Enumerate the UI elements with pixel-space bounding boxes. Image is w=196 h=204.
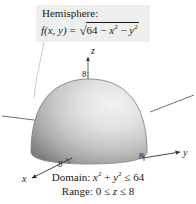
range-lower: 0 ≤ [96, 185, 113, 197]
radicand: 64 − x2 − y2 [86, 22, 139, 37]
range-label: Range: [62, 185, 96, 197]
domain-line: Domain: x2 + y2 ≤ 64 [0, 170, 196, 184]
domain-plus: + [101, 171, 113, 183]
range-upper: ≤ 8 [117, 185, 134, 197]
domain-relation: ≤ 64 [122, 171, 145, 183]
caption-block: Domain: x2 + y2 ≤ 64 Range: 0 ≤ z ≤ 8 [0, 170, 196, 198]
radicand-minus: − [118, 24, 130, 36]
equals-sign: = [67, 24, 79, 36]
radical-expression: √64 − x2 − y2 [78, 22, 138, 38]
axis-y-positive [143, 152, 180, 158]
axis-label-z: z [91, 46, 95, 56]
axis-tick-label-z-8: 8 [82, 70, 87, 79]
axis-tick-label-x-8: 8 [58, 160, 63, 169]
callout-formula: f(x, y) = √64 − x2 − y2 [41, 22, 139, 38]
function-args: (x, y) [44, 24, 67, 36]
domain-label: Domain: [52, 171, 93, 183]
callout-title: Hemisphere: [42, 7, 98, 20]
hemisphere-surface [31, 79, 147, 164]
radicand-constant: 64 − [87, 24, 110, 36]
axis-x-negative [150, 95, 194, 112]
axis-tick-label-y-8: 8 [139, 152, 144, 161]
range-line: Range: 0 ≤ z ≤ 8 [0, 184, 196, 198]
axis-label-y: y [183, 148, 187, 158]
callout-label-box: Hemisphere: f(x, y) = √64 − x2 − y2 [36, 5, 150, 42]
radicand-y-exponent: 2 [134, 23, 138, 31]
hemisphere-figure: Hemisphere: f(x, y) = √64 − x2 − y2 z 8 … [0, 0, 196, 204]
